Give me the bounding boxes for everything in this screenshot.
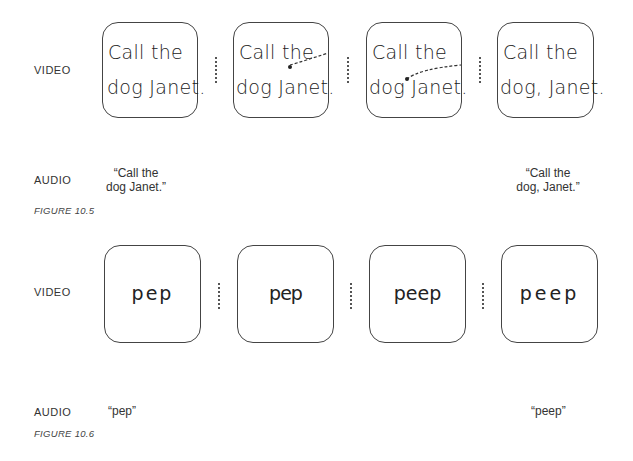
- video-label-b: VIDEO: [34, 286, 71, 298]
- figure-caption-a: FIGURE 10.5: [34, 205, 94, 216]
- video-frame-a1: Call the dog Janet.: [102, 22, 198, 118]
- frame-text-line1: Call the: [108, 41, 197, 63]
- frame-text: pep: [238, 282, 333, 304]
- frame-text: pep: [105, 282, 200, 304]
- comma-motion-path-icon: [234, 23, 330, 119]
- audio-transcript-a-right: “Call the dog, Janet.”: [508, 166, 588, 194]
- frame-text: peep: [370, 282, 465, 304]
- figure-caption-b: FIGURE 10.6: [34, 428, 94, 439]
- audio-line1: “Call the: [96, 166, 176, 180]
- video-label-a: VIDEO: [34, 64, 71, 76]
- video-frame-b2: pep: [237, 245, 334, 343]
- video-frame-b4: peep: [501, 245, 598, 343]
- frame-separator: [218, 283, 222, 309]
- frame-separator: [482, 283, 486, 309]
- audio-transcript-b-right: “peep”: [531, 404, 566, 418]
- audio-line2: dog Janet.”: [96, 180, 176, 194]
- audio-transcript-b-left: “pep”: [108, 404, 136, 418]
- audio-label-a: AUDIO: [34, 174, 71, 186]
- audio-transcript-a-left: “Call the dog Janet.”: [96, 166, 176, 194]
- frame-separator: [479, 57, 483, 83]
- video-frame-a2: Call the dog Janet.: [233, 22, 329, 118]
- video-frame-a3: Call the dog Janet.: [366, 22, 462, 118]
- frame-separator: [215, 57, 219, 83]
- audio-line2: dog, Janet.”: [508, 180, 588, 194]
- frame-text: peep: [502, 282, 597, 304]
- comma-motion-path-icon: [367, 23, 463, 119]
- frame-text-line2: dog, Janet.: [500, 76, 593, 98]
- audio-line1: “Call the: [508, 166, 588, 180]
- audio-label-b: AUDIO: [34, 406, 71, 418]
- video-frame-b1: pep: [104, 245, 201, 343]
- frame-separator: [347, 57, 351, 83]
- video-frame-b3: peep: [369, 245, 466, 343]
- frame-separator: [350, 283, 354, 309]
- frame-text-line1: Call the: [503, 41, 593, 63]
- frame-text-line2: dog Janet.: [107, 76, 197, 98]
- video-frame-a4: Call the dog, Janet.: [497, 22, 594, 118]
